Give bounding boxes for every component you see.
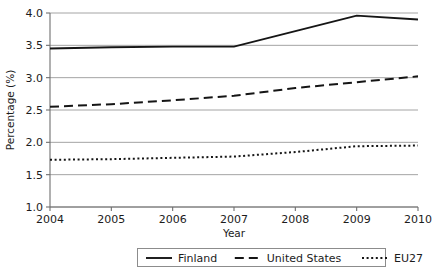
x-tick-label: 2007 <box>220 213 248 226</box>
y-tick-label: 4.0 <box>26 7 44 20</box>
series-line-eu27 <box>50 146 418 160</box>
series-group <box>50 16 418 160</box>
gridlines <box>50 13 418 207</box>
line-chart: 1.01.52.02.53.03.54.0 200420052006200720… <box>0 0 442 271</box>
x-tick-label: 2009 <box>343 213 371 226</box>
x-axis-ticks: 2004200520062007200820092010 <box>36 207 432 226</box>
legend-label-finland: Finland <box>178 252 217 265</box>
chart-canvas: 1.01.52.02.53.03.54.0 200420052006200720… <box>0 0 442 271</box>
y-tick-label: 3.5 <box>26 39 44 52</box>
y-tick-label: 3.0 <box>26 72 44 85</box>
legend-label-united-states: United States <box>267 252 342 265</box>
x-axis-title: Year <box>222 227 246 239</box>
x-tick-label: 2008 <box>281 213 309 226</box>
y-tick-label: 2.5 <box>26 104 44 117</box>
x-tick-label: 2005 <box>97 213 125 226</box>
y-tick-label: 2.0 <box>26 136 44 149</box>
series-line-united-states <box>50 76 418 106</box>
series-line-finland <box>50 16 418 49</box>
y-axis-ticks: 1.01.52.02.53.03.54.0 <box>26 7 51 214</box>
x-tick-label: 2004 <box>36 213 64 226</box>
x-tick-label: 2006 <box>159 213 187 226</box>
y-tick-label: 1.5 <box>26 169 44 182</box>
legend-label-eu27: EU27 <box>394 252 423 265</box>
legend-border <box>138 249 386 267</box>
y-axis-title: Percentage (%) <box>4 70 16 151</box>
chart-legend: FinlandUnited StatesEU27 <box>138 249 424 267</box>
x-tick-label: 2010 <box>404 213 432 226</box>
